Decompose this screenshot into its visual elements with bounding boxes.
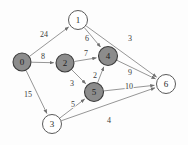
graph-node-1[interactable]: 1 — [69, 11, 88, 30]
graph-canvas: 248156373291054 0123456 — [0, 0, 188, 145]
node-label-3: 3 — [50, 119, 55, 129]
graph-diagram: 248156373291054 0123456 — [0, 0, 188, 145]
graph-node-0[interactable]: 0 — [13, 53, 31, 71]
edge-weight-1-4: 6 — [85, 34, 89, 43]
edge-weight-2-5: 3 — [70, 79, 74, 88]
graph-edge-0-1 — [30, 27, 69, 56]
edges-layer — [26, 26, 156, 121]
graph-node-2[interactable]: 2 — [56, 54, 74, 72]
graph-node-6[interactable]: 6 — [157, 75, 176, 94]
node-label-1: 1 — [76, 15, 81, 25]
edge-weight-3-5: 5 — [71, 100, 75, 109]
node-label-2: 2 — [63, 58, 68, 68]
edge-weight-2-4: 7 — [84, 49, 88, 58]
edge-weight-0-2: 8 — [41, 52, 45, 61]
edge-weight-0-3: 15 — [24, 90, 32, 99]
edge-weight-4-6: 9 — [128, 68, 132, 77]
graph-edge-0-2 — [31, 62, 53, 63]
graph-node-5[interactable]: 5 — [85, 83, 104, 102]
edge-weight-0-1: 24 — [40, 30, 48, 39]
edge-weight-3-6: 4 — [107, 116, 111, 125]
graph-edge-1-6 — [86, 26, 156, 77]
graph-node-3[interactable]: 3 — [43, 115, 62, 134]
edge-labels-layer: 248156373291054 — [24, 30, 133, 125]
edge-weight-5-6: 10 — [125, 82, 133, 91]
graph-edge-2-4 — [74, 58, 96, 62]
node-label-4: 4 — [106, 51, 111, 61]
edge-weight-1-6: 3 — [128, 34, 132, 43]
graph-edge-5-4 — [98, 67, 104, 83]
node-label-0: 0 — [20, 57, 25, 67]
graph-node-4[interactable]: 4 — [99, 47, 118, 66]
graph-edge-4-6 — [117, 60, 155, 79]
node-label-5: 5 — [92, 87, 97, 97]
edge-weight-5-4: 2 — [93, 71, 97, 80]
node-label-6: 6 — [164, 79, 169, 89]
